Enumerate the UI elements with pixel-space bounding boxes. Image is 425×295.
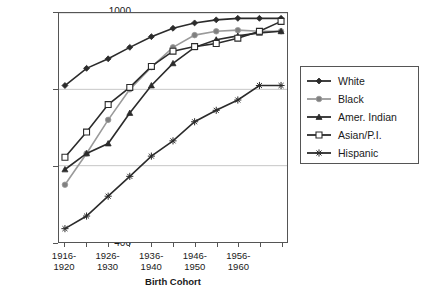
legend-item-hispanic[interactable]: Hispanic — [306, 144, 414, 162]
data-point-diamond — [213, 17, 219, 23]
legend-item-asian-p-i[interactable]: Asian/P.I. — [306, 126, 414, 144]
legend-marker-triangle-icon — [306, 110, 332, 124]
x-tick-label: 1956-1960 — [211, 250, 265, 272]
data-point-open-square — [256, 28, 262, 34]
data-point-open-square — [62, 154, 68, 160]
legend-item-white[interactable]: White — [306, 72, 414, 90]
legend-label: Asian/P.I. — [338, 129, 382, 141]
data-point-asterisk — [315, 149, 322, 156]
data-point-open-square — [213, 41, 219, 47]
x-axis-title: Birth Cohort — [58, 276, 288, 287]
data-point-circle — [192, 32, 198, 38]
legend-marker-circle-icon — [306, 92, 332, 106]
x-tick-mark — [151, 243, 152, 247]
chart-container: Completion Ratio 1000800600400 1916-1920… — [0, 0, 425, 295]
legend-marker-open-square-icon — [306, 128, 332, 142]
legend-label: Amer. Indian — [338, 111, 397, 123]
data-point-circle — [316, 96, 322, 102]
data-point-asterisk — [234, 96, 241, 103]
data-point-open-square — [278, 18, 284, 24]
x-tick-mark — [64, 243, 65, 247]
x-tick-mark — [282, 243, 283, 247]
plot-area — [58, 12, 288, 243]
x-tick-mark — [217, 243, 218, 247]
plot-svg — [59, 13, 287, 242]
legend-label: Black — [338, 93, 364, 105]
data-point-diamond — [170, 25, 176, 31]
data-point-open-square — [105, 102, 111, 108]
data-point-open-square — [170, 48, 176, 54]
series-hispanic — [61, 82, 284, 232]
data-point-asterisk — [256, 82, 263, 89]
data-point-open-square — [316, 132, 322, 138]
data-point-asterisk — [83, 212, 90, 219]
data-point-asterisk — [61, 225, 68, 232]
legend-item-amer-indian[interactable]: Amer. Indian — [306, 108, 414, 126]
data-point-circle — [62, 182, 68, 188]
data-point-asterisk — [213, 107, 220, 114]
data-point-diamond — [192, 20, 198, 26]
data-point-asterisk — [148, 153, 155, 160]
legend-item-black[interactable]: Black — [306, 90, 414, 108]
data-point-open-square — [127, 84, 133, 90]
x-tick-mark — [195, 243, 196, 247]
y-tick-mark — [53, 243, 58, 244]
data-point-open-square — [192, 44, 198, 50]
legend-label: Hispanic — [338, 147, 378, 159]
x-tick-mark — [108, 243, 109, 247]
data-point-open-square — [148, 63, 154, 69]
data-point-circle — [105, 117, 111, 123]
data-point-open-square — [235, 35, 241, 41]
x-tick-mark — [173, 243, 174, 247]
data-point-asterisk — [277, 82, 284, 89]
data-point-circle — [213, 29, 219, 35]
x-tick-mark — [260, 243, 261, 247]
x-tick-mark — [86, 243, 87, 247]
data-point-diamond — [127, 44, 133, 50]
legend-marker-diamond-icon — [306, 74, 332, 88]
legend-label: White — [338, 75, 365, 87]
x-tick-mark — [129, 243, 130, 247]
chart-legend: WhiteBlackAmer. IndianAsian/P.I.Hispanic — [300, 66, 419, 164]
data-point-diamond — [316, 78, 322, 84]
data-point-open-square — [84, 129, 90, 135]
legend-marker-asterisk-icon — [306, 146, 332, 160]
data-point-diamond — [235, 15, 241, 21]
series-line — [65, 86, 281, 229]
x-tick-label-line2: 1960 — [211, 261, 265, 272]
x-tick-mark — [238, 243, 239, 247]
data-point-diamond — [256, 15, 262, 21]
x-tick-label-line1: 1956- — [211, 250, 265, 261]
data-point-diamond — [105, 56, 111, 62]
data-point-diamond — [148, 34, 154, 40]
